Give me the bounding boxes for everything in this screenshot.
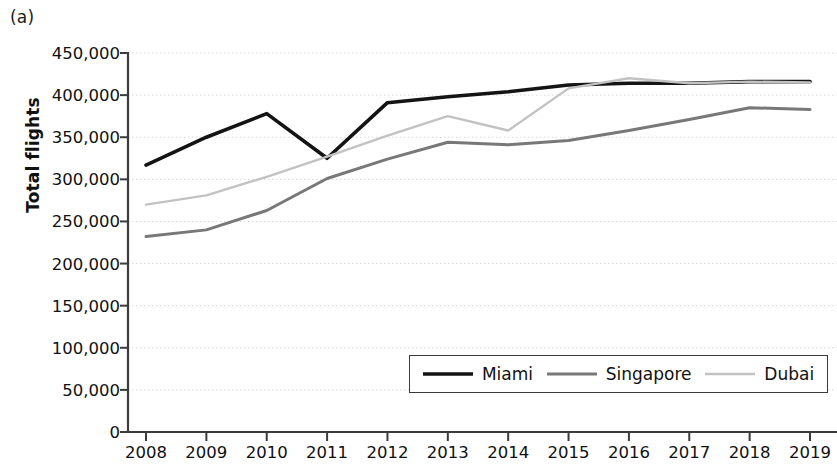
legend-line-swatch [423, 368, 473, 380]
chart-legend: MiamiSingaporeDubai [409, 355, 828, 393]
x-tick-label: 2019 [775, 443, 837, 462]
x-axis-tick-labels: 2008200920102011201220132014201520162017… [0, 0, 837, 474]
legend-item-miami: Miami [423, 364, 533, 384]
legend-label: Miami [482, 364, 533, 384]
legend-line-swatch [547, 368, 597, 380]
legend-item-singapore: Singapore [547, 364, 692, 384]
legend-label: Dubai [764, 364, 814, 384]
line-chart: (a) Total flights 450,000400,000350,0003… [0, 0, 837, 474]
legend-line-swatch [705, 368, 755, 380]
legend-item-dubai: Dubai [705, 364, 814, 384]
legend-label: Singapore [606, 364, 692, 384]
